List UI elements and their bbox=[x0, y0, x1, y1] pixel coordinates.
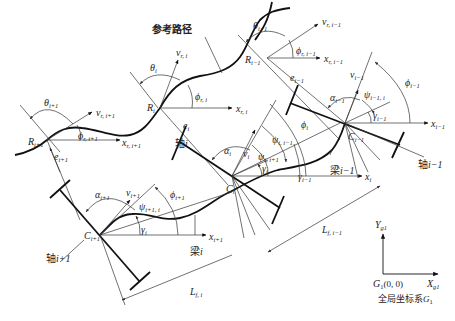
svg-text:αi+1: αi+1 bbox=[95, 189, 110, 201]
axle-point-c-i-plus-1: Ci+1 αi+1 vi+1 ϕi+1 ψi+1, i γi xi+1 轴i+1… bbox=[46, 180, 232, 305]
axle-i-label: 轴i bbox=[175, 137, 188, 149]
kinematic-diagram: 参考路径 Ri+1 θi+1 vr, i+1 ϕr, i+1 xr, i+1 e… bbox=[0, 0, 455, 321]
reference-path-leader bbox=[205, 37, 222, 73]
svg-text:ei−1: ei−1 bbox=[290, 72, 304, 84]
svg-text:xi: xi bbox=[364, 171, 371, 183]
svg-text:ϕi: ϕi bbox=[301, 119, 308, 131]
axle-i-plus-1-label: 轴i+1 bbox=[46, 252, 71, 264]
svg-text:αi−1: αi−1 bbox=[330, 92, 345, 104]
svg-text:Ci−1: Ci−1 bbox=[348, 131, 364, 143]
svg-text:ϕr, i+1: ϕr, i+1 bbox=[78, 130, 98, 142]
svg-text:γi: γi bbox=[141, 224, 147, 236]
length-f-i-minus-1-label: Lf, i−1 bbox=[321, 224, 342, 236]
svg-text:ψi, i−1: ψi, i−1 bbox=[272, 134, 293, 146]
reference-point-r-i-plus-1: Ri+1 θi+1 vr, i+1 ϕr, i+1 xr, i+1 ei+1 bbox=[20, 97, 141, 163]
e-i-line bbox=[160, 108, 228, 185]
svg-text:xi+1: xi+1 bbox=[208, 231, 223, 243]
length-f-i-label: Lf, i bbox=[189, 286, 203, 298]
global-coordinate-frame: Yg1 Xg1 G1(0, 0) 全局坐标系G1 bbox=[373, 219, 440, 305]
svg-text:ϕr, i: ϕr, i bbox=[195, 91, 207, 103]
svg-text:ψi, i+1: ψi, i+1 bbox=[258, 151, 279, 163]
reference-point-r-i: Ri θi vr, i ϕr, i xr, i ei bbox=[130, 47, 248, 132]
svg-text:vi−1: vi−1 bbox=[350, 69, 364, 81]
length-f-i-dimension bbox=[122, 255, 232, 300]
svg-text:vr, i+1: vr, i+1 bbox=[96, 107, 115, 119]
svg-text:vr, i: vr, i bbox=[176, 47, 188, 59]
origin-label: G1(0, 0) bbox=[373, 278, 403, 290]
svg-text:xr, i: xr, i bbox=[235, 103, 248, 115]
svg-text:ϕr, i−1: ϕr, i−1 bbox=[296, 45, 316, 57]
svg-text:Ci+1: Ci+1 bbox=[84, 230, 100, 242]
svg-text:vr, i−1: vr, i−1 bbox=[322, 16, 341, 28]
svg-text:γi−1: γi−1 bbox=[298, 171, 311, 183]
svg-text:Ri: Ri bbox=[146, 102, 155, 114]
beam-i-minus-1-label: 梁i−1 bbox=[330, 164, 355, 176]
svg-text:xi−1: xi−1 bbox=[430, 118, 445, 130]
svg-text:ϕi+1: ϕi+1 bbox=[170, 189, 185, 201]
svg-text:xr, i+1: xr, i+1 bbox=[121, 137, 141, 149]
svg-text:vi: vi bbox=[243, 148, 249, 160]
svg-text:θi+1: θi+1 bbox=[44, 97, 58, 109]
svg-text:ψi−1, i: ψi−1, i bbox=[364, 89, 385, 101]
axle-i-minus-1-label: 轴i−1 bbox=[418, 158, 443, 170]
svg-text:ψi+1, i: ψi+1, i bbox=[139, 201, 160, 213]
axle-point-c-i-minus-1: Ci−1 αi−1 vi−1 ϕi−1 ψi−1, i γi−1 xi−1 轴i… bbox=[286, 52, 445, 178]
beam-i-label: 梁i bbox=[190, 245, 203, 257]
svg-text:γi−1: γi−1 bbox=[373, 110, 386, 122]
axle-point-c-i: Ci αi vi ϕi ψi, i+1 ψi, i−1 γi γi−1 xi 轴… bbox=[172, 100, 371, 238]
length-f-i-minus-1-dimension bbox=[268, 186, 380, 252]
svg-text:ϕi−1: ϕi−1 bbox=[405, 77, 420, 89]
svg-text:xr, i−1: xr, i−1 bbox=[323, 53, 343, 65]
svg-text:αi: αi bbox=[224, 145, 231, 157]
svg-text:θi: θi bbox=[150, 62, 157, 74]
svg-text:Ri+1: Ri+1 bbox=[27, 136, 44, 148]
reference-path-label: 参考路径 bbox=[152, 23, 192, 35]
x-axis-label: Xg1 bbox=[426, 278, 440, 290]
y-axis-label: Yg1 bbox=[375, 219, 387, 231]
svg-text:vi+1: vi+1 bbox=[126, 187, 140, 199]
global-frame-caption: 全局坐标系G1 bbox=[378, 293, 433, 305]
